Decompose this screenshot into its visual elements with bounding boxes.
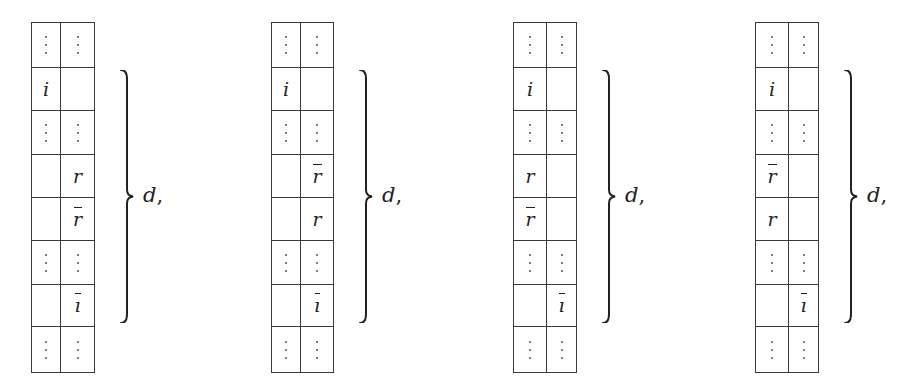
- brace-label-comma: ,: [156, 183, 163, 207]
- vertical-ellipsis-cell: [756, 111, 789, 155]
- symbol-cell: r: [514, 155, 547, 198]
- tableau-panel-1: irrıd,: [31, 0, 175, 388]
- empty-cell: [32, 198, 61, 241]
- tableau-row: r: [514, 198, 577, 241]
- tableau-grid: irrı: [31, 22, 95, 373]
- vertical-ellipsis-cell: [514, 23, 547, 68]
- tableau-row: [756, 23, 819, 68]
- symbol-cell: ı: [789, 285, 819, 327]
- tableau-grid: irrı: [755, 22, 819, 373]
- tableau-row: [272, 241, 334, 285]
- brace-label-comma: ,: [880, 183, 887, 207]
- tableau-row: i: [272, 68, 334, 111]
- vertical-ellipsis-cell: [789, 327, 819, 373]
- vertical-ellipsis-cell: [32, 241, 61, 285]
- empty-cell: [789, 155, 819, 198]
- brace-label: d,: [143, 183, 163, 207]
- tableau-grid: irrı: [513, 22, 577, 373]
- tableau-row: r: [514, 155, 577, 198]
- symbol-cell: ı: [61, 285, 95, 327]
- symbol-cell: ı: [301, 285, 334, 327]
- tableau-row: ı: [514, 285, 577, 327]
- symbol-r-bar: r: [525, 210, 534, 229]
- empty-cell: [61, 68, 95, 111]
- empty-cell: [547, 155, 577, 198]
- vertical-ellipsis-cell: [61, 241, 95, 285]
- symbol-i: i: [527, 80, 533, 99]
- vertical-ellipsis-cell: [756, 327, 789, 373]
- vertical-ellipsis-cell: [301, 327, 334, 373]
- empty-cell: [547, 68, 577, 111]
- tableau-row: [272, 327, 334, 373]
- tableau-row: [272, 23, 334, 68]
- vertical-ellipsis-cell: [547, 327, 577, 373]
- right-curly-brace-icon: [359, 70, 375, 323]
- symbol-i: i: [283, 80, 289, 99]
- tableau-row: r: [272, 155, 334, 198]
- symbol-r-bar: r: [312, 167, 321, 186]
- symbol-i-bar: ı: [314, 296, 320, 315]
- tableau-row: ı: [756, 285, 819, 327]
- vertical-ellipsis-cell: [61, 327, 95, 373]
- vertical-ellipsis-cell: [301, 111, 334, 155]
- brace-label-comma: ,: [395, 183, 402, 207]
- brace-label-variable: d: [625, 183, 638, 207]
- vertical-ellipsis-cell: [301, 241, 334, 285]
- symbol-i-bar: ı: [558, 296, 564, 315]
- brace-label: d,: [625, 183, 645, 207]
- brace-label-variable: d: [143, 183, 156, 207]
- tableau-row: r: [32, 198, 95, 241]
- symbol-cell: r: [61, 155, 95, 198]
- empty-cell: [756, 285, 789, 327]
- symbol-i-bar: ı: [74, 296, 80, 315]
- symbol-cell: r: [301, 155, 334, 198]
- vertical-ellipsis-cell: [514, 327, 547, 373]
- tableau-row: [32, 23, 95, 68]
- brace-label-variable: d: [382, 183, 395, 207]
- tableau-row: [514, 111, 577, 155]
- vertical-ellipsis-cell: [32, 111, 61, 155]
- tableau-row: [32, 111, 95, 155]
- brace-label: d,: [867, 183, 887, 207]
- symbol-r: r: [73, 167, 82, 186]
- tableau-row: [756, 327, 819, 373]
- vertical-ellipsis-cell: [301, 23, 334, 68]
- empty-cell: [272, 198, 301, 241]
- vertical-ellipsis-cell: [61, 23, 95, 68]
- tableau-row: ı: [272, 285, 334, 327]
- vertical-ellipsis-cell: [547, 111, 577, 155]
- symbol-cell: r: [301, 198, 334, 241]
- symbol-cell: r: [756, 198, 789, 241]
- symbol-i-bar: ı: [800, 296, 806, 315]
- right-curly-brace-icon: [120, 70, 136, 323]
- vertical-ellipsis-cell: [32, 327, 61, 373]
- empty-cell: [547, 198, 577, 241]
- symbol-cell: r: [61, 198, 95, 241]
- tableau-panel-4: irrıd,: [755, 0, 899, 388]
- symbol-cell: r: [514, 198, 547, 241]
- vertical-ellipsis-cell: [789, 111, 819, 155]
- tableau-row: [756, 111, 819, 155]
- vertical-ellipsis-cell: [547, 23, 577, 68]
- vertical-ellipsis-cell: [32, 23, 61, 68]
- tableau-row: r: [272, 198, 334, 241]
- empty-cell: [789, 198, 819, 241]
- tableau-row: [32, 241, 95, 285]
- tableau-row: r: [32, 155, 95, 198]
- empty-cell: [301, 68, 334, 111]
- symbol-r: r: [767, 210, 776, 229]
- symbol-r: r: [525, 167, 534, 186]
- symbol-r-bar: r: [767, 167, 776, 186]
- tableau-row: i: [514, 68, 577, 111]
- tableau-panel-2: irrıd,: [271, 0, 414, 388]
- empty-cell: [789, 68, 819, 111]
- vertical-ellipsis-cell: [756, 241, 789, 285]
- symbol-cell: i: [272, 68, 301, 111]
- vertical-ellipsis-cell: [61, 111, 95, 155]
- brace-label-comma: ,: [638, 183, 645, 207]
- tableau-panel-3: irrıd,: [513, 0, 657, 388]
- tableau-row: [514, 327, 577, 373]
- vertical-ellipsis-cell: [514, 241, 547, 285]
- tableau-row: i: [32, 68, 95, 111]
- symbol-r-bar: r: [73, 210, 82, 229]
